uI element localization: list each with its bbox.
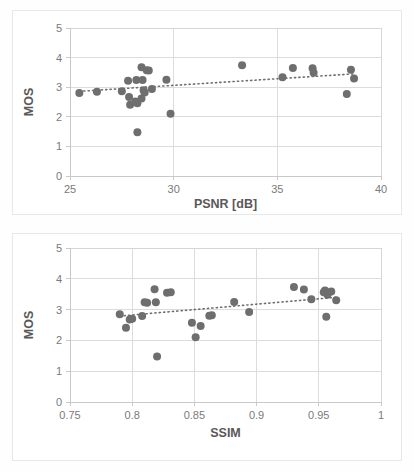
data-point bbox=[290, 283, 298, 291]
data-point bbox=[133, 128, 141, 136]
y-axis-tick-label: 4 bbox=[56, 52, 62, 64]
x-axis-tick-label: 35 bbox=[271, 183, 283, 195]
y-axis-tick-label: 3 bbox=[56, 81, 62, 93]
trendline bbox=[120, 297, 336, 316]
data-point bbox=[128, 315, 136, 323]
data-point bbox=[167, 288, 175, 296]
figure-page: 01234525303540PSNR [dB]MOS 0123450.750.8… bbox=[0, 0, 414, 472]
x-axis-title: PSNR [dB] bbox=[194, 197, 257, 211]
data-point bbox=[188, 319, 196, 327]
data-point bbox=[141, 89, 149, 97]
data-point bbox=[167, 110, 175, 118]
x-axis-tick-label: 0.95 bbox=[308, 409, 329, 421]
data-point bbox=[162, 76, 170, 84]
data-point bbox=[75, 89, 83, 97]
series-psnr bbox=[75, 61, 358, 136]
y-axis-tick-label: 1 bbox=[56, 140, 62, 152]
data-point bbox=[310, 69, 318, 77]
data-point bbox=[307, 295, 315, 303]
data-point bbox=[245, 308, 253, 316]
x-axis-tick-label: 25 bbox=[64, 183, 76, 195]
data-point bbox=[197, 322, 205, 330]
x-axis-title: SSIM bbox=[210, 426, 241, 440]
plot-area-ssim: 0123450.750.80.850.90.951SSIMMOS bbox=[13, 234, 401, 460]
data-point bbox=[343, 90, 351, 98]
data-point bbox=[143, 299, 151, 307]
y-axis-tick-label: 4 bbox=[56, 273, 62, 285]
x-axis-tick-label: 0.9 bbox=[249, 409, 264, 421]
y-axis-title: MOS bbox=[22, 311, 36, 339]
data-point bbox=[279, 73, 287, 81]
chart-panel-psnr: 01234525303540PSNR [dB]MOS bbox=[12, 10, 402, 215]
data-point bbox=[151, 285, 159, 293]
data-point bbox=[122, 324, 130, 332]
x-axis-tick-label: 0.8 bbox=[125, 409, 140, 421]
plot-area-psnr: 01234525303540PSNR [dB]MOS bbox=[13, 11, 401, 214]
data-point bbox=[148, 85, 156, 93]
scatter-chart-psnr: 01234525303540PSNR [dB]MOS bbox=[13, 11, 401, 214]
x-axis-tick-label: 0.75 bbox=[59, 409, 80, 421]
y-axis-tick-label: 1 bbox=[56, 365, 62, 377]
x-axis-tick-label: 1 bbox=[378, 409, 384, 421]
y-axis-tick-label: 2 bbox=[56, 111, 62, 123]
y-axis-tick-label: 0 bbox=[56, 396, 62, 408]
data-point bbox=[145, 67, 153, 75]
chart-panel-ssim: 0123450.750.80.850.90.951SSIMMOS bbox=[12, 233, 402, 461]
y-axis-tick-label: 2 bbox=[56, 334, 62, 346]
series-ssim bbox=[116, 283, 340, 360]
data-point bbox=[116, 310, 124, 318]
x-axis-tick-label: 40 bbox=[375, 183, 387, 195]
data-point bbox=[138, 312, 146, 320]
data-point bbox=[300, 286, 308, 294]
y-axis-tick-label: 5 bbox=[56, 242, 62, 254]
data-point bbox=[322, 313, 330, 321]
data-point bbox=[139, 76, 147, 84]
data-point bbox=[327, 287, 335, 295]
scatter-chart-ssim: 0123450.750.80.850.90.951SSIMMOS bbox=[13, 234, 401, 460]
data-point bbox=[153, 352, 161, 360]
x-axis-tick-label: 0.85 bbox=[184, 409, 205, 421]
data-point bbox=[124, 77, 132, 85]
data-point bbox=[238, 61, 246, 69]
x-axis-tick-label: 30 bbox=[168, 183, 180, 195]
data-point bbox=[208, 311, 216, 319]
data-point bbox=[118, 87, 126, 95]
y-axis-tick-label: 0 bbox=[56, 170, 62, 182]
data-point bbox=[93, 88, 101, 96]
data-point bbox=[332, 296, 340, 304]
data-point bbox=[347, 66, 355, 74]
data-point bbox=[230, 298, 238, 306]
data-point bbox=[289, 64, 297, 72]
data-point bbox=[192, 333, 200, 341]
data-point bbox=[152, 298, 160, 306]
data-point bbox=[350, 75, 358, 83]
y-axis-title: MOS bbox=[22, 88, 36, 116]
y-axis-tick-label: 5 bbox=[56, 22, 62, 34]
y-axis-tick-label: 3 bbox=[56, 304, 62, 316]
